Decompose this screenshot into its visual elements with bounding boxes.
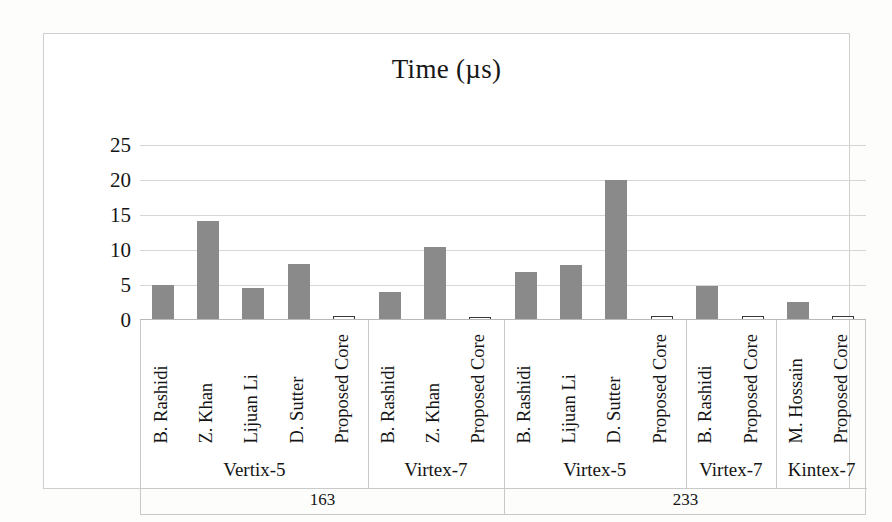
category-label: B. Rashidi: [151, 365, 170, 445]
category-label: D. Sutter: [605, 376, 624, 445]
device-group-label-virtex-5: Virtex-5: [504, 459, 686, 481]
category-cell: B. Rashidi: [368, 320, 413, 451]
bar-slot: [140, 145, 185, 320]
bars-layer: [140, 145, 866, 320]
bar-slot: [594, 145, 639, 320]
y-tick-label-0: 0: [83, 308, 131, 333]
category-label: Lijuan Li: [242, 374, 261, 445]
y-tick-label-5: 5: [83, 273, 131, 298]
category-label: B. Rashidi: [378, 365, 397, 445]
category-cell: B. Rashidi: [141, 320, 186, 451]
category-cell: Proposed Core: [640, 320, 685, 451]
category-label: Proposed Core: [741, 334, 760, 445]
category-cell: Lijuan Li: [232, 320, 277, 451]
category-label: Proposed Core: [469, 334, 488, 445]
category-label: D. Sutter: [287, 376, 306, 445]
bar-slot: [185, 145, 230, 320]
bar-z-khan-6[interactable]: [424, 247, 446, 320]
field-size-separator: [504, 320, 505, 514]
category-cell: Proposed Core: [459, 320, 504, 451]
bar-d-sutter-10[interactable]: [605, 180, 627, 320]
field-size-label-163: 163: [141, 490, 504, 510]
category-cell: D. Sutter: [595, 320, 640, 451]
plot-area: 0510152025: [140, 145, 866, 320]
device-group-label-kintex-7: Kintex-7: [776, 459, 867, 481]
y-tick-label-10: 10: [83, 238, 131, 263]
category-cell: B. Rashidi: [504, 320, 549, 451]
category-cell: Proposed Core: [731, 320, 776, 451]
category-label-box: B. RashidiZ. KhanLijuan LiD. SutterPropo…: [140, 320, 866, 515]
category-label: Proposed Core: [333, 334, 352, 445]
bar-slot: [412, 145, 457, 320]
chart-figure: Time (µs) 0510152025 B. RashidiZ. KhanLi…: [0, 0, 892, 522]
category-cell: Proposed Core: [323, 320, 368, 451]
device-group-separator: [776, 320, 777, 488]
device-group-label-virtex-7: Virtex-7: [686, 459, 777, 481]
chart-frame: Time (µs) 0510152025 B. RashidiZ. KhanLi…: [43, 33, 850, 489]
field-size-label-233: 233: [504, 490, 867, 510]
category-label: Z. Khan: [423, 382, 442, 445]
category-label: Z. Khan: [197, 382, 216, 445]
bar-d-sutter-3[interactable]: [288, 264, 310, 320]
bar-slot: [639, 145, 684, 320]
bar-slot: [458, 145, 503, 320]
category-cell: B. Rashidi: [686, 320, 731, 451]
category-cell: Proposed Core: [822, 320, 867, 451]
bar-slot: [775, 145, 820, 320]
category-cell: Z. Khan: [186, 320, 231, 451]
category-label: Proposed Core: [650, 334, 669, 445]
category-label: Lijuan Li: [560, 374, 579, 445]
bar-b-rashidi-0[interactable]: [152, 285, 174, 320]
bar-slot: [322, 145, 367, 320]
bar-slot: [367, 145, 412, 320]
bar-slot: [276, 145, 321, 320]
category-label: B. Rashidi: [696, 365, 715, 445]
bar-slot: [548, 145, 593, 320]
category-cell: Z. Khan: [413, 320, 458, 451]
category-cell: M. Hossain: [776, 320, 821, 451]
device-group-separator: [368, 320, 369, 488]
bar-slot: [685, 145, 730, 320]
y-tick-label-25: 25: [83, 133, 131, 158]
bar-b-rashidi-12[interactable]: [696, 286, 718, 320]
bar-b-rashidi-8[interactable]: [515, 272, 537, 320]
category-label: B. Rashidi: [514, 365, 533, 445]
category-cell: D. Sutter: [277, 320, 322, 451]
category-cell: Lijuan Li: [549, 320, 594, 451]
bar-slot: [503, 145, 548, 320]
bar-slot: [730, 145, 775, 320]
bar-lijuan-li-2[interactable]: [242, 288, 264, 320]
bar-lijuan-li-9[interactable]: [560, 265, 582, 320]
y-tick-label-15: 15: [83, 203, 131, 228]
category-label: Proposed Core: [832, 334, 851, 445]
bar-slot: [231, 145, 276, 320]
category-label: M. Hossain: [786, 358, 805, 445]
device-group-label-virtex-7: Virtex-7: [368, 459, 504, 481]
bar-z-khan-1[interactable]: [197, 221, 219, 320]
device-group-label-vertix-5: Vertix-5: [141, 459, 368, 481]
y-tick-label-20: 20: [83, 168, 131, 193]
bar-m-hossain-14[interactable]: [787, 302, 809, 320]
chart-title: Time (µs): [44, 54, 849, 85]
bar-slot: [821, 145, 866, 320]
device-group-separator: [686, 320, 687, 488]
bar-b-rashidi-5[interactable]: [379, 292, 401, 320]
